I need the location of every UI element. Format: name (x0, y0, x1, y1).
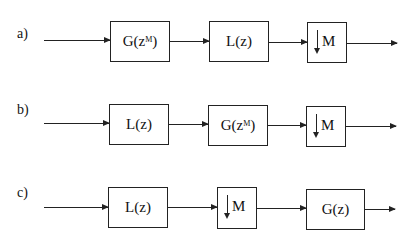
block-sup: M (145, 35, 152, 44)
block-close: ) (152, 33, 157, 50)
row-label-c: c) (17, 186, 28, 200)
block-text: G(z (123, 33, 146, 50)
input-arrow-c (44, 207, 108, 208)
block-close: ) (250, 117, 255, 134)
block-text: L(z) (125, 199, 151, 216)
arrow-b-2-3 (268, 125, 306, 126)
block-downsampler-a: M (307, 22, 347, 63)
block-text: G(z (221, 117, 244, 134)
input-arrow-a (44, 40, 110, 41)
output-arrow-c (365, 209, 395, 210)
row-label-b: b) (17, 103, 29, 117)
block-downsampler-c: M (217, 187, 257, 229)
block-text: L(z) (226, 33, 252, 50)
block-text: G(z) (322, 201, 349, 218)
arrow-c-2-3 (257, 208, 306, 209)
arrow-a-1-2 (170, 41, 209, 42)
block-text: M (322, 34, 335, 49)
arrow-b-1-2 (169, 124, 208, 125)
arrow-c-1-2 (168, 207, 217, 208)
down-arrow-icon (317, 30, 318, 51)
block-G-zM-b: G(zM) (208, 105, 268, 146)
block-downsampler-b: M (306, 106, 346, 147)
block-text: L(z) (126, 116, 152, 133)
block-text: M (321, 118, 334, 133)
block-L-z-c: L(z) (108, 187, 168, 228)
block-L-z-b: L(z) (109, 104, 169, 145)
arrow-a-2-3 (269, 42, 307, 43)
down-arrow-icon (227, 195, 228, 216)
input-arrow-b (44, 123, 109, 124)
block-G-zM-a: G(zM) (110, 21, 170, 62)
block-sup: M (243, 119, 250, 128)
block-G-z-c: G(z) (306, 189, 365, 230)
down-arrow-icon (316, 114, 317, 135)
output-arrow-b (346, 126, 396, 127)
block-L-z-a: L(z) (209, 21, 269, 62)
output-arrow-a (347, 43, 397, 44)
block-text: M (232, 199, 245, 214)
row-label-a: a) (17, 27, 28, 41)
